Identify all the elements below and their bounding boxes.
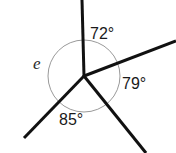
vertex-point (83, 75, 86, 78)
angle-label-85: 85° (59, 112, 83, 128)
angle-label-72: 72° (90, 26, 114, 42)
ray-upper-right (84, 41, 176, 76)
angle-diagram-svg (0, 0, 176, 153)
ray-up (82, 0, 84, 76)
angle-label-unknown-e: e (33, 55, 41, 72)
ray-lower-left (24, 76, 84, 138)
angle-label-79: 79° (122, 76, 146, 92)
angle-diagram: 72° 79° 85° e (0, 0, 176, 153)
